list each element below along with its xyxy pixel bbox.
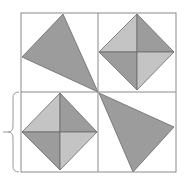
pattern-figure <box>0 0 187 187</box>
figure-container <box>0 0 187 187</box>
curly-brace <box>8 92 19 172</box>
